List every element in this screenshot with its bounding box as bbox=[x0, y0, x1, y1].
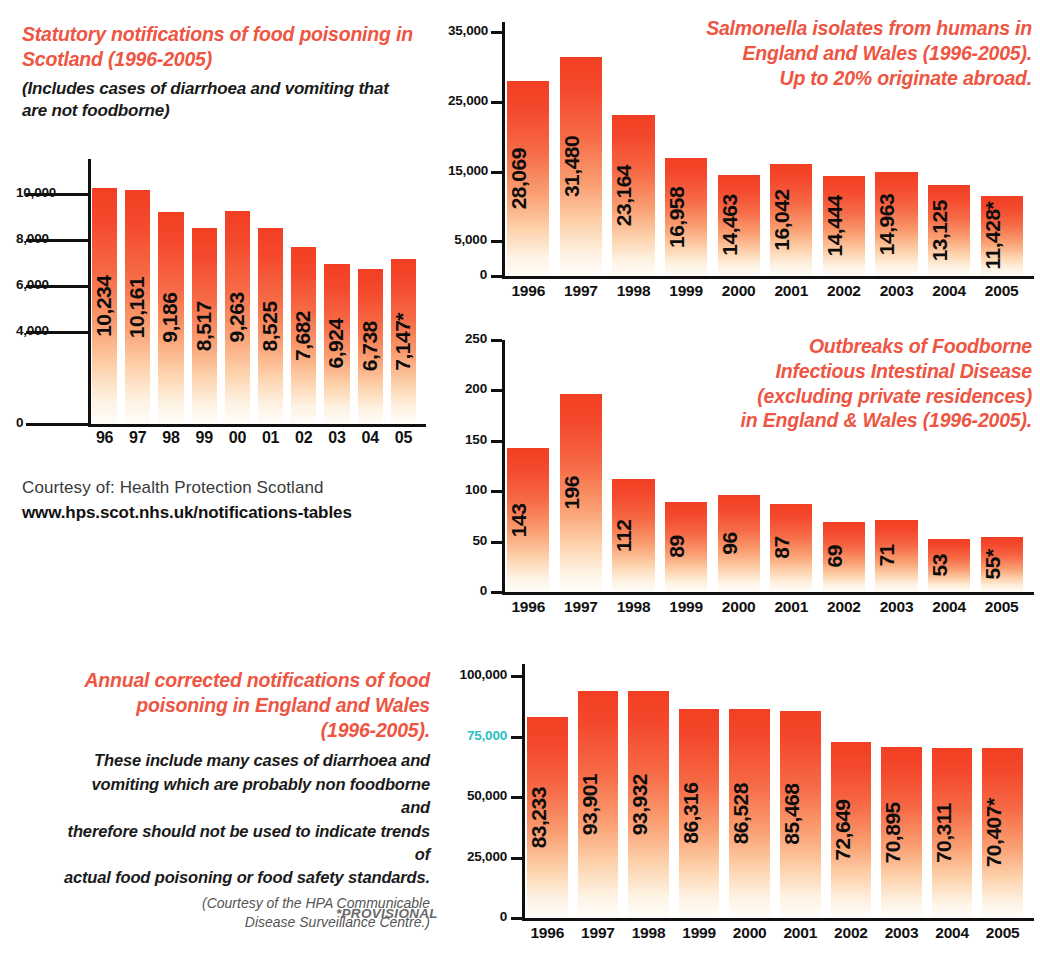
bar[interactable] bbox=[932, 748, 972, 918]
bar-group: 86,316 bbox=[679, 664, 719, 918]
bar[interactable] bbox=[192, 228, 217, 424]
y-axis-tick-label: 25,000 bbox=[436, 849, 507, 864]
scotland-bar-chart: 04,0006,0008,00010,00010,2349610,161979,… bbox=[16, 155, 426, 460]
bar-group: 196 bbox=[560, 340, 602, 592]
bar[interactable] bbox=[770, 164, 812, 276]
scotland-credit-url[interactable]: www.hps.scot.nhs.uk/notifications-tables bbox=[22, 503, 352, 523]
y-axis-tick-label: 100 bbox=[448, 482, 487, 497]
y-axis-tick-label: 8,000 bbox=[16, 231, 22, 246]
england-wales-body-line-2: vomiting which are probably non foodborn… bbox=[62, 773, 430, 820]
england-wales-body-line-1: These include many cases of diarrhoea an… bbox=[62, 749, 430, 772]
provisional-footnote: *PROVISIONAL bbox=[336, 906, 438, 921]
x-axis-tick-label: 2004 bbox=[923, 282, 976, 300]
bar[interactable] bbox=[527, 717, 567, 918]
y-axis-tick bbox=[511, 857, 522, 860]
y-axis-tick-label: 35,000 bbox=[448, 23, 487, 38]
y-axis-tick-label: 5,000 bbox=[448, 232, 487, 247]
y-axis-tick-label: 0 bbox=[436, 909, 507, 924]
bar-group: 13,125 bbox=[928, 22, 970, 276]
bar[interactable] bbox=[780, 711, 820, 918]
bar[interactable] bbox=[258, 228, 283, 424]
england-wales-bar-chart: 025,00050,00075,000100,00083,233199693,9… bbox=[436, 656, 1034, 956]
y-axis-tick bbox=[491, 389, 502, 392]
y-axis-tick bbox=[491, 541, 502, 544]
y-axis-tick-label: 6,000 bbox=[16, 277, 22, 292]
bar[interactable] bbox=[823, 522, 865, 592]
y-axis-tick-label: 150 bbox=[448, 432, 487, 447]
bar[interactable] bbox=[225, 211, 250, 424]
england-wales-body-paragraph: These include many cases of diarrhoea an… bbox=[62, 749, 430, 890]
x-axis-tick-label: 2005 bbox=[975, 598, 1028, 616]
bar[interactable] bbox=[875, 520, 917, 592]
bar[interactable] bbox=[560, 57, 602, 276]
bar-group: 85,468 bbox=[780, 664, 820, 918]
bar-group: 28,069 bbox=[507, 22, 549, 276]
x-axis-tick-label: 2003 bbox=[870, 282, 923, 300]
bar[interactable] bbox=[92, 188, 117, 424]
scotland-chart-subtitle: (Includes cases of diarrhoea and vomitin… bbox=[22, 78, 417, 122]
y-axis-tick-label: 0 bbox=[448, 583, 487, 598]
y-axis-tick-label: 50 bbox=[448, 533, 487, 548]
england-wales-title-line-1: Annual corrected notifications of food bbox=[62, 668, 430, 693]
bar-group: 10,234 bbox=[92, 159, 117, 424]
scotland-chart-title: Statutory notifications of food poisonin… bbox=[22, 22, 417, 72]
outbreaks-bar-chart: 0501001502002501431996196199711219988919… bbox=[448, 330, 1034, 630]
bar[interactable] bbox=[507, 81, 549, 276]
x-axis-tick-label: 03 bbox=[320, 429, 353, 447]
bar[interactable] bbox=[560, 394, 602, 592]
y-axis-tick bbox=[511, 736, 522, 739]
bar[interactable] bbox=[125, 190, 150, 424]
bar-group: 16,042 bbox=[770, 22, 812, 276]
bar-group: 7,147* bbox=[391, 159, 416, 424]
england-wales-title-line-3: (1996-2005). bbox=[62, 718, 430, 743]
x-axis-tick-label: 05 bbox=[387, 429, 420, 447]
x-axis-tick-label: 2000 bbox=[712, 598, 765, 616]
bar[interactable] bbox=[612, 479, 654, 592]
bar[interactable] bbox=[928, 185, 970, 276]
x-axis-tick-label: 2000 bbox=[724, 924, 775, 942]
bar[interactable] bbox=[718, 175, 760, 276]
bar[interactable] bbox=[507, 448, 549, 592]
y-axis-tick bbox=[491, 240, 502, 243]
bar[interactable] bbox=[982, 748, 1022, 918]
bar[interactable] bbox=[665, 158, 707, 276]
x-axis-tick-label: 1997 bbox=[555, 598, 608, 616]
bar[interactable] bbox=[718, 495, 760, 592]
y-axis-tick bbox=[26, 423, 88, 426]
y-axis-tick-label: 100,000 bbox=[436, 667, 507, 682]
x-axis-tick-label: 04 bbox=[354, 429, 387, 447]
bar[interactable] bbox=[881, 747, 921, 918]
bar[interactable] bbox=[158, 212, 183, 424]
y-axis-line bbox=[88, 159, 91, 427]
bar[interactable] bbox=[823, 176, 865, 277]
scotland-credit-block: Courtesy of: Health Protection Scotland … bbox=[22, 478, 352, 523]
bar[interactable] bbox=[981, 537, 1023, 592]
x-axis-line bbox=[522, 918, 1034, 921]
x-axis-tick-label: 1998 bbox=[623, 924, 674, 942]
bar[interactable] bbox=[831, 742, 871, 918]
x-axis-tick-label: 2004 bbox=[923, 598, 976, 616]
bar[interactable] bbox=[875, 172, 917, 276]
bar[interactable] bbox=[291, 247, 316, 424]
y-axis-tick bbox=[491, 101, 502, 104]
bar[interactable] bbox=[324, 264, 349, 424]
scotland-title-block: Statutory notifications of food poisonin… bbox=[22, 22, 417, 122]
bar[interactable] bbox=[679, 709, 719, 918]
bar[interactable] bbox=[358, 269, 383, 424]
bar-group: 83,233 bbox=[527, 664, 567, 918]
bar[interactable] bbox=[665, 502, 707, 592]
bar[interactable] bbox=[391, 259, 416, 424]
y-axis-tick bbox=[511, 917, 522, 920]
bar[interactable] bbox=[770, 504, 812, 592]
bar[interactable] bbox=[628, 691, 668, 918]
bar[interactable] bbox=[729, 709, 769, 918]
bar[interactable] bbox=[612, 115, 654, 276]
bar-group: 7,682 bbox=[291, 159, 316, 424]
x-axis-tick-label: 97 bbox=[121, 429, 154, 447]
bar-group: 6,738 bbox=[358, 159, 383, 424]
bar[interactable] bbox=[928, 539, 970, 592]
bar[interactable] bbox=[981, 196, 1023, 276]
bar[interactable] bbox=[578, 691, 618, 918]
bar-group: 70,895 bbox=[881, 664, 921, 918]
y-axis-tick bbox=[491, 339, 502, 342]
